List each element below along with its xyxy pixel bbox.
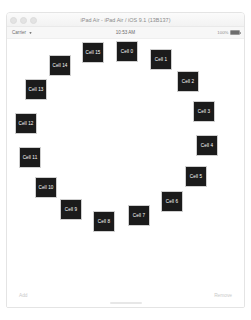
collection-cell[interactable]: Cell 4 <box>196 135 218 156</box>
battery-full-icon <box>230 30 240 35</box>
screenshot-root: iPad Air - iPad Air / iOS 9.1 (13B137) C… <box>0 0 251 320</box>
simulator-window: iPad Air - iPad Air / iOS 9.1 (13B137) C… <box>6 12 245 308</box>
window-title: iPad Air - iPad Air / iOS 9.1 (13B137) <box>7 16 244 24</box>
collection-view: Cell 0Cell 1Cell 2Cell 3Cell 4Cell 5Cell… <box>7 39 244 284</box>
collection-cell[interactable]: Cell 3 <box>193 101 215 122</box>
status-bar-time: 10:53 AM <box>7 29 244 36</box>
ios-status-bar: Carrier 10:53 AM 100% <box>7 27 244 39</box>
collection-cell[interactable]: Cell 13 <box>25 79 47 100</box>
collection-cell[interactable]: Cell 0 <box>116 41 138 62</box>
collection-cell[interactable]: Cell 6 <box>161 191 183 212</box>
collection-cell[interactable]: Cell 8 <box>93 211 115 232</box>
collection-cell[interactable]: Cell 2 <box>177 71 199 92</box>
status-bar-right: 100% <box>217 29 240 36</box>
collection-cell[interactable]: Cell 9 <box>60 199 82 220</box>
add-button[interactable]: Add <box>19 292 28 299</box>
collection-cell[interactable]: Cell 15 <box>82 42 104 63</box>
collection-cell[interactable]: Cell 10 <box>35 177 57 198</box>
collection-cell[interactable]: Cell 11 <box>19 147 41 168</box>
remove-button[interactable]: Remove <box>214 292 232 299</box>
collection-cell[interactable]: Cell 5 <box>185 166 207 187</box>
collection-cell[interactable]: Cell 1 <box>150 49 172 70</box>
battery-percent-label: 100% <box>217 29 228 36</box>
window-titlebar[interactable]: iPad Air - iPad Air / iOS 9.1 (13B137) <box>7 13 244 27</box>
home-indicator <box>110 302 142 304</box>
collection-cell[interactable]: Cell 7 <box>128 205 150 226</box>
bottom-toolbar: Add Remove <box>7 284 244 308</box>
collection-cell[interactable]: Cell 12 <box>15 113 37 134</box>
collection-cell[interactable]: Cell 14 <box>49 55 71 76</box>
